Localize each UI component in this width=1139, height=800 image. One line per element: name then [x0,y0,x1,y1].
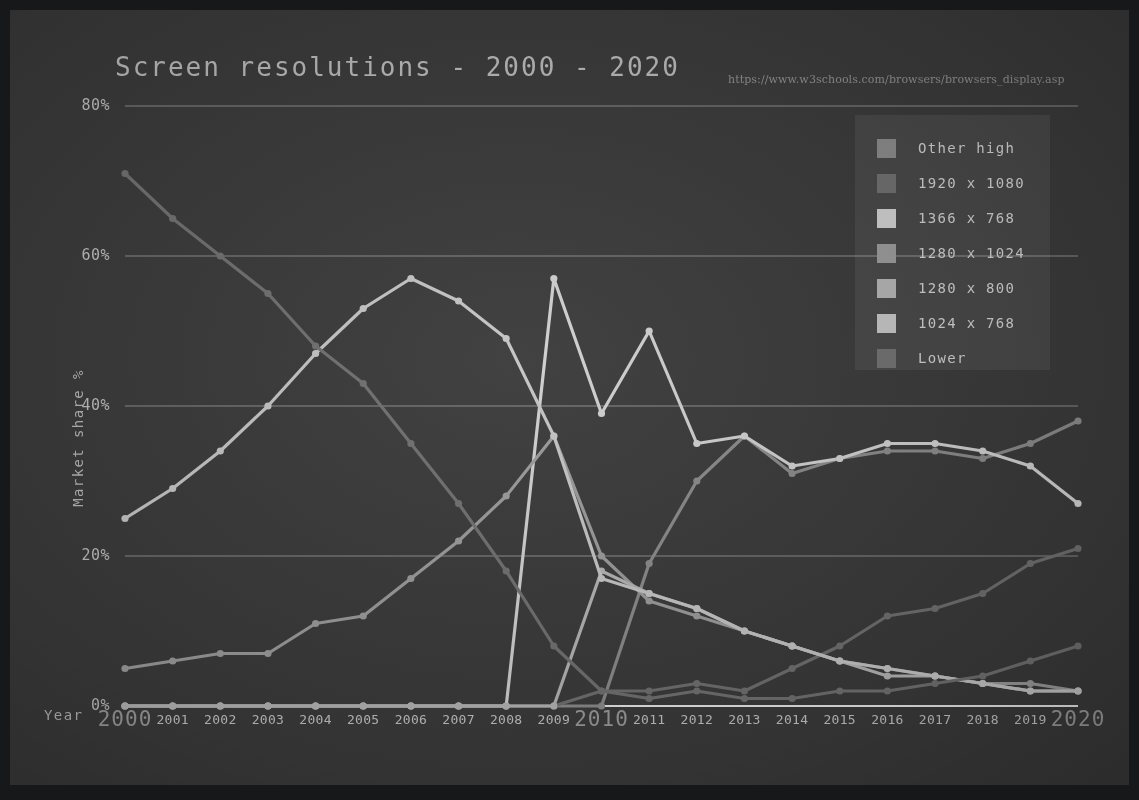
data-point[interactable] [931,605,938,612]
data-point[interactable] [931,440,938,447]
data-point[interactable] [360,380,367,387]
data-point[interactable] [121,515,128,522]
data-point[interactable] [217,650,224,657]
data-point[interactable] [360,305,367,312]
data-point[interactable] [693,477,700,484]
data-point[interactable] [646,687,653,694]
data-point[interactable] [836,657,843,664]
data-point[interactable] [836,642,843,649]
chart-legend[interactable]: Other high1920 x 10801366 x 7681280 x 10… [855,115,1050,370]
legend-item[interactable]: Other high [877,137,1015,159]
data-point[interactable] [789,695,796,702]
data-point[interactable] [693,612,700,619]
data-point[interactable] [646,327,653,334]
data-point[interactable] [121,170,128,177]
data-point[interactable] [1074,545,1081,552]
data-point[interactable] [1074,642,1081,649]
data-point[interactable] [836,687,843,694]
data-point[interactable] [598,575,605,582]
data-point[interactable] [503,702,510,709]
data-point[interactable] [741,687,748,694]
data-point[interactable] [979,590,986,597]
data-point[interactable] [598,552,605,559]
data-point[interactable] [503,335,510,342]
data-point[interactable] [264,650,271,657]
legend-item[interactable]: 1366 x 768 [877,207,1015,229]
data-point[interactable] [455,297,462,304]
data-point[interactable] [312,620,319,627]
data-point[interactable] [407,440,414,447]
data-point[interactable] [741,627,748,634]
data-point[interactable] [550,432,557,439]
data-point[interactable] [979,447,986,454]
data-point[interactable] [264,702,271,709]
data-point[interactable] [360,702,367,709]
data-point[interactable] [312,342,319,349]
data-point[interactable] [884,612,891,619]
data-point[interactable] [169,702,176,709]
data-point[interactable] [121,665,128,672]
data-point[interactable] [693,605,700,612]
data-point[interactable] [646,695,653,702]
data-point[interactable] [979,672,986,679]
data-point[interactable] [1074,500,1081,507]
data-point[interactable] [979,680,986,687]
data-point[interactable] [884,687,891,694]
data-point[interactable] [931,447,938,454]
data-point[interactable] [264,290,271,297]
data-point[interactable] [789,462,796,469]
data-point[interactable] [884,440,891,447]
data-point[interactable] [312,350,319,357]
data-point[interactable] [598,687,605,694]
data-point[interactable] [550,702,557,709]
data-point[interactable] [646,597,653,604]
data-point[interactable] [979,455,986,462]
data-point[interactable] [884,665,891,672]
data-point[interactable] [789,470,796,477]
data-point[interactable] [217,447,224,454]
data-point[interactable] [169,215,176,222]
data-point[interactable] [789,642,796,649]
data-point[interactable] [550,275,557,282]
data-point[interactable] [455,702,462,709]
legend-item[interactable]: 1024 x 768 [877,312,1015,334]
data-point[interactable] [407,275,414,282]
data-point[interactable] [264,402,271,409]
data-point[interactable] [550,642,557,649]
data-point[interactable] [1074,417,1081,424]
data-point[interactable] [884,447,891,454]
data-point[interactable] [169,485,176,492]
data-point[interactable] [360,612,367,619]
data-point[interactable] [503,492,510,499]
data-point[interactable] [312,702,319,709]
data-point[interactable] [455,500,462,507]
data-point[interactable] [741,695,748,702]
data-point[interactable] [931,680,938,687]
data-point[interactable] [1074,687,1081,694]
data-point[interactable] [598,410,605,417]
data-point[interactable] [217,252,224,259]
legend-item[interactable]: 1280 x 1024 [877,242,1025,264]
data-point[interactable] [693,440,700,447]
data-point[interactable] [741,432,748,439]
legend-item[interactable]: 1280 x 800 [877,277,1015,299]
data-point[interactable] [455,537,462,544]
data-point[interactable] [169,657,176,664]
data-point[interactable] [646,590,653,597]
data-point[interactable] [1027,560,1034,567]
data-point[interactable] [931,672,938,679]
data-point[interactable] [789,665,796,672]
data-point[interactable] [693,680,700,687]
data-point[interactable] [407,575,414,582]
data-point[interactable] [1027,657,1034,664]
data-point[interactable] [1027,440,1034,447]
data-point[interactable] [407,702,414,709]
data-point[interactable] [217,702,224,709]
data-point[interactable] [503,567,510,574]
data-point[interactable] [646,560,653,567]
legend-item[interactable]: 1920 x 1080 [877,172,1025,194]
data-point[interactable] [693,687,700,694]
data-point[interactable] [884,672,891,679]
legend-item[interactable]: Lower [877,347,967,369]
data-point[interactable] [1027,462,1034,469]
